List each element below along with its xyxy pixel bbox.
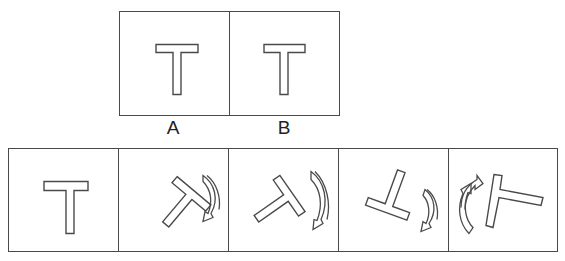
t-shape-icon xyxy=(149,177,211,239)
panel-a xyxy=(120,12,229,115)
t-shape-icon xyxy=(230,12,339,115)
t-shape-icon xyxy=(486,175,543,228)
label-a: A xyxy=(158,117,188,139)
sequence-panel-5 xyxy=(449,149,557,251)
t-shape-icon xyxy=(9,149,118,251)
sequence-panels xyxy=(8,148,558,252)
panel-5-graphic xyxy=(449,149,557,251)
sequence-panel-2 xyxy=(119,149,228,251)
t-shape-icon xyxy=(120,12,229,115)
curved-rotate-arrow-icon xyxy=(311,172,329,230)
panel-4-graphic xyxy=(339,149,448,251)
panel-b xyxy=(230,12,339,115)
label-b: B xyxy=(269,117,299,139)
curved-rotate-arrow-icon xyxy=(460,176,483,234)
curved-rotate-arrow-icon xyxy=(203,176,220,222)
sequence-panel-3 xyxy=(229,149,338,251)
reference-panels xyxy=(119,11,340,116)
t-shape-icon xyxy=(244,175,305,236)
sequence-panel-4 xyxy=(339,149,448,251)
panel-2-graphic xyxy=(119,149,228,251)
sequence-panel-1 xyxy=(9,149,118,251)
panel-3-graphic xyxy=(229,149,338,251)
curved-rotate-arrow-icon xyxy=(421,190,438,232)
t-shape-icon xyxy=(366,164,422,220)
